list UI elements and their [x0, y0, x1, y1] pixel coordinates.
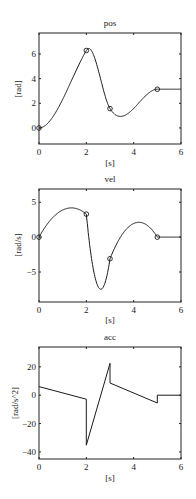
svg-text:4: 4 [131, 305, 136, 315]
pos-title: pos [104, 18, 117, 28]
figure: pos 02460246 [s] [rad] vel 0246−505 [s] … [0, 0, 196, 499]
pos-markers [37, 48, 160, 130]
svg-text:−40: −40 [22, 447, 37, 457]
svg-text:4: 4 [32, 74, 37, 84]
acc-ylabel: [rad/s^2] [10, 387, 20, 419]
acc-panel: acc 0246−40−20020 [s] [rad/s^2] [10, 332, 184, 483]
vel-axes-box [39, 189, 181, 302]
svg-text:2: 2 [32, 98, 37, 108]
vel-title: vel [105, 174, 116, 184]
svg-text:2: 2 [84, 305, 89, 315]
vel-ylabel: [rad/s] [13, 233, 23, 257]
svg-text:0: 0 [37, 305, 42, 315]
acc-curve [39, 363, 181, 445]
svg-text:2: 2 [84, 462, 89, 472]
svg-text:2: 2 [84, 147, 89, 157]
svg-text:5: 5 [32, 197, 37, 207]
svg-text:6: 6 [32, 49, 37, 59]
svg-text:0: 0 [37, 462, 42, 472]
svg-text:0: 0 [32, 123, 37, 133]
vel-panel: vel 0246−505 [s] [rad/s] [13, 174, 184, 325]
svg-text:4: 4 [131, 147, 136, 157]
acc-xlabel: [s] [105, 473, 115, 483]
pos-panel: pos 02460246 [s] [rad] [13, 18, 184, 168]
vel-curve [39, 208, 181, 289]
svg-text:0: 0 [32, 390, 37, 400]
svg-text:4: 4 [131, 462, 136, 472]
svg-text:6: 6 [179, 462, 184, 472]
svg-text:6: 6 [179, 305, 184, 315]
svg-text:20: 20 [27, 362, 37, 372]
vel-ticks: 0246−505 [26, 189, 183, 315]
svg-text:−5: −5 [26, 267, 36, 277]
acc-ticks: 0246−40−20020 [22, 347, 184, 472]
pos-xlabel: [s] [105, 158, 115, 168]
vel-xlabel: [s] [105, 315, 115, 325]
pos-ticks: 02460246 [32, 33, 184, 157]
vel-markers [37, 212, 160, 261]
svg-text:0: 0 [32, 232, 37, 242]
svg-text:0: 0 [37, 147, 42, 157]
pos-ylabel: [rad] [13, 80, 23, 98]
acc-title: acc [104, 332, 116, 342]
svg-text:6: 6 [179, 147, 184, 157]
svg-text:−20: −20 [22, 419, 37, 429]
